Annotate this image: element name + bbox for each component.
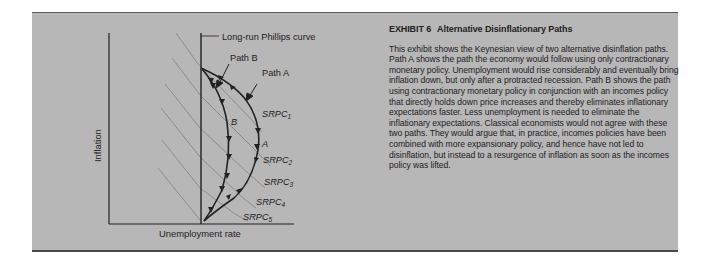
srpc-2-label: SRPC2 <box>263 155 293 166</box>
srpc-4-label: SRPC4 <box>256 197 286 208</box>
label-pointers <box>216 64 257 101</box>
srpc-line-6 <box>158 168 200 220</box>
srpc-1-label: SRPC1 <box>262 109 292 120</box>
lrpc-label: Long-run Phillips curve <box>222 32 315 42</box>
curve-a-letter: A <box>261 139 268 149</box>
exhibit-caption: EXHIBIT 6 Alternative Disinflationary Pa… <box>389 24 679 171</box>
exhibit-number: EXHIBIT 6 <box>389 24 435 35</box>
srpc-5-label: SRPC5 <box>243 212 273 223</box>
exhibit-title: Alternative Disinflationary Paths <box>437 24 572 34</box>
exhibit-heading: EXHIBIT 6 Alternative Disinflationary Pa… <box>389 24 679 35</box>
srpc-line-2 <box>172 58 270 166</box>
srpc-line-3 <box>165 84 265 188</box>
x-axis-label: Unemployment rate <box>159 228 241 239</box>
srpc-3-label: SRPC3 <box>264 177 294 188</box>
path-a-curve <box>201 68 259 221</box>
srpc-line-4 <box>161 108 256 208</box>
exhibit-description: This exhibit shows the Keynesian view of… <box>389 44 679 171</box>
path-a-label: Path A <box>262 68 290 78</box>
curve-b-letter: B <box>231 117 237 127</box>
path-b-label: Path B <box>230 53 258 63</box>
y-axis-label: Inflation <box>92 129 103 162</box>
srpc-line-5 <box>162 140 248 221</box>
